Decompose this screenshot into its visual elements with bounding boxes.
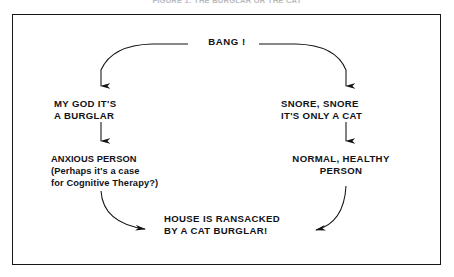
node-house-ransacked: HOUSE IS RANSACKED BY A CAT BURGLAR! <box>164 213 280 237</box>
node-ransacked-line-2: BY A CAT BURGLAR! <box>164 225 280 237</box>
node-ransacked-line-1: HOUSE IS RANSACKED <box>164 213 280 225</box>
node-normal-person: NORMAL, HEALTHY PERSON <box>281 153 401 177</box>
node-anxious-person: ANXIOUS PERSON (Perhaps it's a case for … <box>51 153 158 190</box>
figure-caption-text: FIGURE 1: THE BURGLAR OR THE CAT <box>0 0 454 5</box>
node-normal-line-2: PERSON <box>281 165 401 177</box>
node-anxious-line-1: ANXIOUS PERSON <box>51 153 158 165</box>
node-cat-line-2: IT'S ONLY A CAT <box>281 110 362 122</box>
node-burglar-line-1: MY GOD IT'S <box>54 98 116 110</box>
node-anxious-line-2: (Perhaps it's a case <box>51 165 158 177</box>
node-burglar: MY GOD IT'S A BURGLAR <box>54 98 116 122</box>
node-anxious-line-3: for Cognitive Therapy?) <box>51 177 158 189</box>
node-burglar-line-2: A BURGLAR <box>54 110 116 122</box>
figure-caption-strip: FIGURE 1: THE BURGLAR OR THE CAT <box>0 0 454 11</box>
node-cat: SNORE, SNORE IT'S ONLY A CAT <box>281 98 362 122</box>
node-bang: BANG ! <box>0 36 454 48</box>
node-bang-line-1: BANG ! <box>0 36 454 48</box>
node-normal-line-1: NORMAL, HEALTHY <box>281 153 401 165</box>
node-cat-line-1: SNORE, SNORE <box>281 98 362 110</box>
